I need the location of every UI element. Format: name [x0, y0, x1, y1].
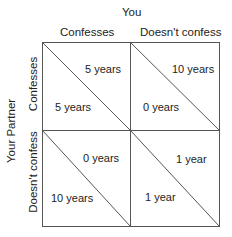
cell-cd-you: 10 years: [172, 63, 214, 75]
cell-dd-partner: 1 year: [145, 191, 176, 203]
cell-diagonal-4: [131, 131, 220, 227]
cell-dd-you: 1 year: [176, 153, 207, 165]
payoff-grid: [0, 0, 232, 237]
cell-dc-partner: 10 years: [51, 192, 93, 204]
cell-diagonal-1: [43, 43, 131, 131]
cell-cd-partner: 0 years: [143, 101, 179, 113]
cell-cc-you: 5 years: [85, 63, 121, 75]
cell-dc-you: 0 years: [83, 152, 119, 164]
cell-cc-partner: 5 years: [55, 101, 91, 113]
cell-diagonal-2: [131, 43, 220, 131]
cell-diagonal-3: [43, 131, 131, 227]
